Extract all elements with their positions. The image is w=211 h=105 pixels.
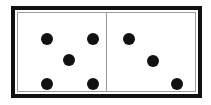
pip-top-left — [41, 33, 53, 45]
pip-top-left — [123, 33, 135, 45]
pip-center — [147, 55, 159, 67]
domino-inner-frame — [17, 12, 196, 92]
domino-left-face — [18, 13, 107, 91]
domino-tile[interactable] — [11, 6, 202, 98]
pip-bottom-right — [87, 78, 99, 90]
pip-bottom-left — [41, 78, 53, 90]
pip-center — [63, 54, 75, 66]
pip-top-right — [87, 33, 99, 45]
pip-bottom-right — [171, 78, 183, 90]
image-canvas — [0, 0, 211, 105]
domino-right-face — [107, 13, 196, 91]
